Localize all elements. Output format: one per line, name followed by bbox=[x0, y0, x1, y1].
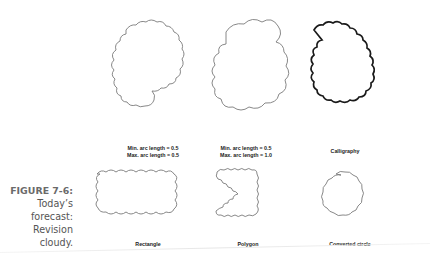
revision-cloud-small-arcs bbox=[112, 20, 185, 107]
revision-cloud-mixed-arcs bbox=[212, 19, 289, 110]
revision-cloud-converted-circle bbox=[322, 171, 364, 215]
label-line: Max. arc length = 0.5 bbox=[118, 152, 188, 159]
label-line: Calligraphy bbox=[320, 148, 370, 155]
label-mixed-arcs: Min. arc length = 0.5 Max. arc length = … bbox=[211, 145, 281, 159]
revision-cloud-rectangle bbox=[96, 170, 177, 214]
label-rectangle: Rectangle bbox=[118, 241, 178, 248]
label-line: Max. arc length = 1.0 bbox=[211, 152, 281, 159]
label-line: Min. arc length = 0.5 bbox=[118, 145, 188, 152]
label-line: Rectangle bbox=[118, 241, 178, 248]
label-line: Min. arc length = 0.5 bbox=[211, 145, 281, 152]
revision-cloud-calligraphy bbox=[311, 22, 374, 103]
revision-cloud-illustrations bbox=[0, 0, 430, 265]
label-calligraphy: Calligraphy bbox=[320, 148, 370, 155]
label-small-arcs: Min. arc length = 0.5 Max. arc length = … bbox=[118, 145, 188, 159]
revision-cloud-polygon bbox=[216, 169, 259, 217]
